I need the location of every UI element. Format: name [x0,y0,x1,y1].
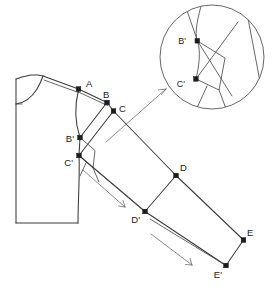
zoom-point-B-prime-marker [195,39,200,44]
point-E-marker [241,238,246,243]
label-D: D [180,162,187,173]
label-E: E [247,227,253,238]
neckline-curve [16,76,43,104]
pleat-tail-left [80,163,86,176]
point-A-marker [76,87,81,92]
bodice-right-side-seam [78,156,79,224]
point-B-marker [105,100,110,105]
zoom-cross-stroke [247,13,262,92]
pattern-diagram-root: B' C' A B C B' C' D D' E E' [0,0,273,287]
sleeve-lower-seam [79,156,226,266]
label-B-prime: B' [66,133,74,144]
line-B-Bprime [80,103,107,138]
zoom-pleat-tail-right [219,90,228,114]
line-Bprime-Cprime [79,138,80,156]
label-C-prime: C' [64,157,73,168]
shoulder-seam-upper [43,76,79,89]
line-C-Cprime [79,111,114,156]
line-D-Dprime [145,176,176,212]
zoom-inset-detail: B' C' [160,2,264,114]
pattern-drawing-canvas: B' C' A B C B' C' D D' E E' [0,0,273,287]
point-B-prime-marker [78,135,83,140]
zoom-label-C-prime: C' [177,79,185,89]
sleeve-inner-fold-upper [90,165,145,212]
zoom-line-Cprime-C [196,22,238,79]
shoulder-seam-lower [44,80,79,93]
bodice-top-left-edge [16,75,43,79]
zoom-pleat-polygon [196,41,225,90]
zoom-label-B-prime: B' [178,36,186,46]
point-D-marker [174,173,179,178]
label-D-prime: D' [131,214,140,225]
label-E-prime: E' [214,269,222,280]
point-D-prime-marker [143,209,148,214]
zoom-point-C-prime-marker [194,77,199,82]
armhole-curve [76,90,80,138]
zoom-leader-arrowhead [159,89,167,95]
point-markers [76,87,246,268]
label-A: A [86,78,93,89]
point-E-prime-marker [224,263,229,268]
point-C-prime-marker [77,153,82,158]
point-labels: A B C B' C' D D' E E' [64,78,253,280]
front-bodice-outline [16,75,80,223]
zoom-pleat-tail-left [196,86,207,110]
label-C: C [119,103,126,114]
label-B: B [103,89,109,100]
zoom-inset-contents [184,2,262,114]
line-E-Eprime [226,240,244,266]
point-C-marker [111,109,116,114]
